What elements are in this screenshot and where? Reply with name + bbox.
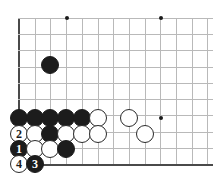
grid-line-horizontal [18, 83, 213, 84]
stone-black-move-3[interactable]: 3 [26, 155, 44, 173]
grid-line-horizontal [18, 34, 213, 35]
grid-line-horizontal [18, 18, 213, 19]
move-number-label: 1 [16, 143, 22, 155]
grid-line-vertical [176, 18, 177, 164]
stone-white[interactable] [120, 109, 138, 127]
grid-line-vertical [192, 18, 193, 164]
stone-black[interactable] [57, 140, 75, 158]
go-board-diagram: 2143 [0, 0, 213, 187]
move-number-label: 2 [16, 128, 22, 140]
stone-white[interactable] [136, 125, 154, 143]
goban-grid: 2143 [0, 0, 213, 187]
grid-line-vertical [113, 18, 114, 164]
move-number-label: 3 [32, 158, 38, 170]
grid-line-horizontal [18, 50, 213, 51]
star-point [65, 16, 69, 20]
star-point [159, 116, 163, 120]
board-bottom-edge-line [18, 164, 213, 166]
grid-line-horizontal [18, 99, 213, 100]
move-number-label: 4 [16, 158, 22, 170]
star-point [159, 16, 163, 20]
stone-black[interactable] [41, 56, 59, 74]
stone-white[interactable] [89, 125, 107, 143]
grid-line-vertical [160, 18, 161, 164]
grid-line-vertical [207, 18, 208, 164]
grid-line-vertical [129, 18, 130, 164]
